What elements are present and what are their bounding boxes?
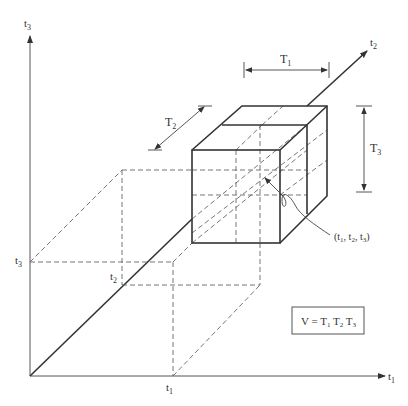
- t1-tick-label: t1: [166, 381, 173, 396]
- t3-tick-label: t3: [15, 254, 22, 269]
- volume-diagram: t3 t2 t1 t3 t2 t1 T1 T2 T3 (t1, t2, t3) …: [0, 0, 408, 406]
- t2-axis-label: t2: [370, 36, 377, 51]
- cube: [192, 106, 327, 243]
- volume-formula: V = T1 T2 T3: [301, 315, 357, 329]
- t2-axis-lower: [30, 219, 192, 376]
- cube-front-face: [192, 150, 280, 243]
- T2-label: T2: [165, 115, 176, 131]
- T3-label: T3: [370, 141, 381, 157]
- t2-axis-upper: [307, 51, 367, 106]
- t3-axis-label: t3: [24, 17, 31, 32]
- T1-label: T1: [280, 52, 291, 68]
- t1-axis-label: t1: [388, 370, 395, 385]
- point-label: (t1, t2, t3): [334, 231, 370, 244]
- dimension-T2: [148, 106, 212, 150]
- t2-tick-label: t2: [110, 270, 117, 285]
